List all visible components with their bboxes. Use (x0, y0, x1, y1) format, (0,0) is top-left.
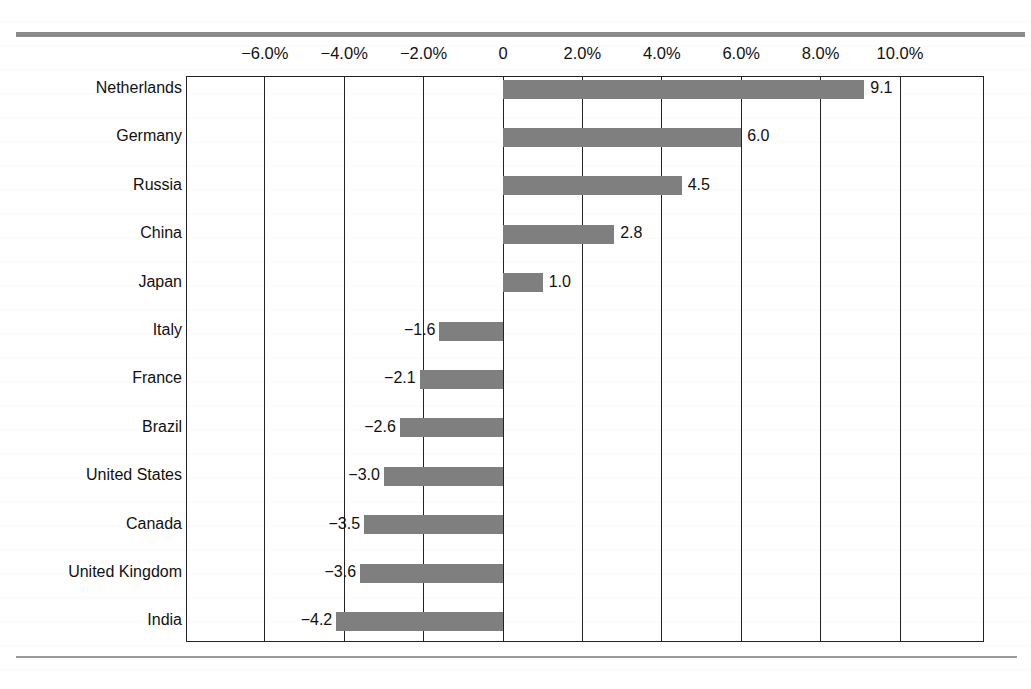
footer-rule (16, 656, 1017, 658)
bar (400, 418, 503, 437)
bar (503, 225, 614, 244)
x-tick-label: 0 (498, 44, 507, 63)
category-label: United Kingdom (68, 563, 182, 581)
bar (503, 128, 741, 147)
value-label: −3.0 (348, 466, 380, 484)
bar (364, 515, 503, 534)
value-label: −4.2 (301, 611, 333, 629)
category-label: Italy (153, 321, 182, 339)
gridline (582, 77, 583, 641)
bar (503, 273, 543, 292)
value-label: 2.8 (620, 224, 642, 242)
gridline (264, 77, 265, 641)
x-tick-label: 8.0% (802, 44, 840, 63)
category-label: France (132, 369, 182, 387)
value-label: 6.0 (747, 127, 769, 145)
bar (420, 370, 503, 389)
category-label: China (140, 224, 182, 242)
gridline (661, 77, 662, 641)
header-rule (16, 32, 1025, 37)
category-label: Canada (126, 515, 182, 533)
bar (439, 322, 503, 341)
x-tick-label: 10.0% (877, 44, 924, 63)
category-label: Brazil (142, 418, 182, 436)
value-label: −2.6 (364, 418, 396, 436)
value-label: −2.1 (384, 369, 416, 387)
plot-area (186, 76, 984, 642)
category-label: Japan (138, 273, 182, 291)
category-label: Russia (133, 176, 182, 194)
value-label: −1.6 (404, 321, 436, 339)
value-label: 1.0 (549, 273, 571, 291)
gridline (503, 77, 504, 641)
bar (384, 467, 503, 486)
x-tick-label: 4.0% (643, 44, 681, 63)
x-tick-label: 6.0% (722, 44, 760, 63)
x-tick-label: −2.0% (400, 44, 447, 63)
gridline (820, 77, 821, 641)
gridline (344, 77, 345, 641)
gridline (423, 77, 424, 641)
x-tick-label: −4.0% (321, 44, 368, 63)
category-label: India (147, 611, 182, 629)
bar (360, 564, 503, 583)
value-label: 9.1 (870, 79, 892, 97)
category-label: Netherlands (96, 79, 182, 97)
x-tick-label: 2.0% (564, 44, 602, 63)
category-label: United States (86, 466, 182, 484)
value-label: −3.5 (328, 515, 360, 533)
gridline (741, 77, 742, 641)
bar (503, 80, 864, 99)
value-label: −3.6 (325, 563, 357, 581)
gridline (900, 77, 901, 641)
value-label: 4.5 (688, 176, 710, 194)
bar (503, 176, 682, 195)
x-tick-label: −6.0% (241, 44, 288, 63)
bar (336, 612, 503, 631)
category-label: Germany (116, 127, 182, 145)
